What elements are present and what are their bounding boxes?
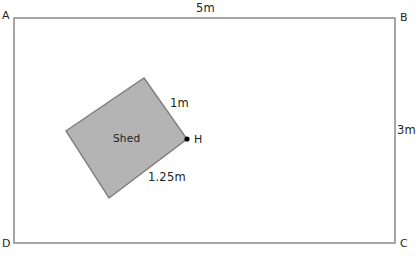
geometry-figure — [0, 0, 416, 259]
corner-label-d: D — [2, 238, 11, 249]
corner-label-c: C — [400, 238, 408, 249]
dimension-label-right-3m: 3m — [397, 125, 416, 137]
shed-side-label-125m: 1.25m — [148, 172, 186, 184]
point-label-h: H — [194, 134, 202, 145]
dimension-label-top-5m: 5m — [196, 3, 215, 15]
corner-label-a: A — [2, 10, 10, 21]
point-h-marker — [184, 136, 189, 141]
shed-label: Shed — [113, 133, 140, 144]
shed-side-label-1m: 1m — [170, 98, 189, 110]
corner-label-b: B — [400, 12, 408, 23]
diagram-canvas: A B C D 5m 3m Shed 1m 1.25m H — [0, 0, 416, 259]
